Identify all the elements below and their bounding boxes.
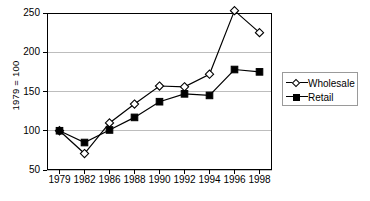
legend-label-retail: Retail [308,92,334,103]
y-tick-label-50: 50 [14,165,40,175]
legend-item-retail[interactable]: Retail [286,90,357,104]
wholesale-marker-icon [286,77,308,89]
x-tick-label-1998: 1998 [245,174,275,185]
data-point-wholesale-1994[interactable] [205,70,213,78]
series-line-retail [60,70,260,143]
data-point-retail-1982[interactable] [81,139,88,146]
y-tick-label-200: 200 [14,47,40,57]
y-axis-title: 1979 = 100 [10,48,21,124]
data-point-retail-1990[interactable] [156,98,163,105]
data-point-retail-1992[interactable] [181,91,188,98]
data-point-retail-1986[interactable] [106,127,113,134]
legend: Wholesale Retail [282,72,358,106]
data-point-retail-1996[interactable] [231,66,238,73]
data-point-retail-1979[interactable] [56,127,63,134]
y-tick-label-150: 150 [14,87,40,97]
data-point-retail-1988[interactable] [131,114,138,121]
data-point-retail-1994[interactable] [206,92,213,99]
y-tick-label-100: 100 [14,126,40,136]
legend-label-wholesale: Wholesale [308,78,355,89]
data-point-retail-1998[interactable] [256,69,263,76]
retail-marker-icon [286,91,308,103]
data-point-wholesale-1992[interactable] [180,83,188,91]
line-chart: 1979 = 100 50100150200250 19791982198619… [0,0,370,201]
legend-item-wholesale[interactable]: Wholesale [286,76,357,90]
data-point-wholesale-1990[interactable] [155,82,163,90]
y-tick-label-250: 250 [14,8,40,18]
